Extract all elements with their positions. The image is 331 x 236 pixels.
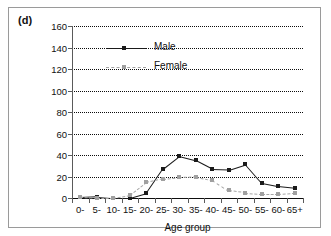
data-point-female xyxy=(227,188,231,192)
data-point-male xyxy=(161,167,165,171)
y-tick-label-60: 60 xyxy=(33,128,67,139)
data-point-female xyxy=(111,196,115,200)
data-point-female xyxy=(210,178,214,182)
x-tick-label-25: 25- xyxy=(156,204,170,215)
x-tick-12 xyxy=(270,198,271,203)
x-tick-label-15: 15- xyxy=(123,204,137,215)
panel-label: (d) xyxy=(18,14,32,26)
x-tick-label-40: 40- xyxy=(205,204,219,215)
data-point-female xyxy=(293,191,297,195)
x-tick-label-5: 5- xyxy=(93,204,101,215)
gridline-160 xyxy=(72,26,303,27)
legend-label-female: Female xyxy=(154,60,187,71)
data-point-male xyxy=(144,191,148,195)
y-axis-line xyxy=(72,26,73,198)
data-point-female xyxy=(276,192,280,196)
y-tick-label-40: 40 xyxy=(33,150,67,161)
legend-line-female xyxy=(106,67,146,68)
figure-panel: (d) 020406080100120140160 Incidence rate… xyxy=(8,7,321,228)
x-tick-label-45: 45- xyxy=(222,204,236,215)
x-tick-11 xyxy=(254,198,255,203)
x-tick-1 xyxy=(89,198,90,203)
x-tick-label-0: 0- xyxy=(76,204,84,215)
x-tick-8 xyxy=(204,198,205,203)
gridline-40 xyxy=(72,155,303,156)
data-point-female xyxy=(144,180,148,184)
x-tick-4 xyxy=(138,198,139,203)
x-tick-label-30: 30- xyxy=(172,204,186,215)
plot-area: MaleFemale Age group 0-5-10-15-20-25-30-… xyxy=(72,26,303,198)
y-axis-tick-labels: 020406080100120140160 xyxy=(33,26,67,198)
line-segment-male xyxy=(162,156,179,170)
x-tick-3 xyxy=(122,198,123,203)
y-tick-label-120: 120 xyxy=(33,64,67,75)
x-tick-6 xyxy=(171,198,172,203)
x-tick-label-50: 50- xyxy=(238,204,252,215)
legend-line-male xyxy=(106,48,146,49)
y-tick-label-0: 0 xyxy=(33,193,67,204)
data-point-female xyxy=(177,175,181,179)
y-tick-80 xyxy=(68,112,72,113)
y-tick-140 xyxy=(68,48,72,49)
data-point-male xyxy=(227,168,231,172)
x-tick-label-10: 10- xyxy=(106,204,120,215)
data-point-male xyxy=(293,186,297,190)
data-point-male xyxy=(243,162,247,166)
y-tick-label-20: 20 xyxy=(33,171,67,182)
data-point-male xyxy=(194,158,198,162)
legend-item-male: Male xyxy=(106,39,226,58)
x-tick-label-55: 55- xyxy=(255,204,269,215)
data-point-male xyxy=(260,181,264,185)
gridline-60 xyxy=(72,134,303,135)
x-tick-9 xyxy=(221,198,222,203)
data-point-female xyxy=(128,193,132,197)
legend-marker-female xyxy=(122,65,126,69)
data-point-female xyxy=(161,177,165,181)
gridline-100 xyxy=(72,91,303,92)
x-tick-label-60: 60- xyxy=(271,204,285,215)
legend-item-female: Female xyxy=(106,58,226,77)
x-tick-2 xyxy=(105,198,106,203)
data-point-female xyxy=(243,191,247,195)
legend-marker-male xyxy=(122,46,126,50)
x-tick-label-35: 35- xyxy=(189,204,203,215)
legend-label-male: Male xyxy=(154,41,176,52)
y-tick-label-140: 140 xyxy=(33,42,67,53)
x-tick-10 xyxy=(237,198,238,203)
x-axis-title: Age group xyxy=(72,222,303,233)
x-tick-5 xyxy=(155,198,156,203)
data-point-male xyxy=(210,167,214,171)
data-point-male xyxy=(276,184,280,188)
gridline-80 xyxy=(72,112,303,113)
chart-legend: MaleFemale xyxy=(106,39,226,77)
y-tick-label-160: 160 xyxy=(33,21,67,32)
data-point-female xyxy=(194,175,198,179)
y-tick-label-100: 100 xyxy=(33,85,67,96)
x-tick-label-20: 20- xyxy=(139,204,153,215)
y-tick-100 xyxy=(68,91,72,92)
x-tick-0 xyxy=(72,198,73,203)
y-tick-20 xyxy=(68,177,72,178)
data-point-female xyxy=(260,192,264,196)
y-tick-160 xyxy=(68,26,72,27)
x-tick-7 xyxy=(188,198,189,203)
x-tick-14 xyxy=(303,198,304,203)
x-tick-label-65: 65+ xyxy=(287,204,303,215)
y-tick-60 xyxy=(68,134,72,135)
y-tick-label-80: 80 xyxy=(33,107,67,118)
y-tick-120 xyxy=(68,69,72,70)
y-tick-40 xyxy=(68,155,72,156)
data-point-female xyxy=(78,195,82,199)
data-point-female xyxy=(95,196,99,200)
x-tick-13 xyxy=(287,198,288,203)
data-point-male xyxy=(177,154,181,158)
